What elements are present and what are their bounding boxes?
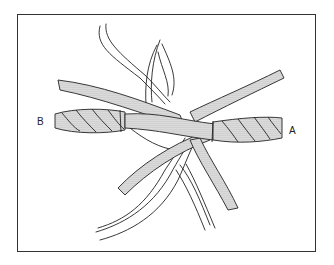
end-label-a: A [289,125,296,136]
end-label-b: B [37,116,44,127]
rope-splice-illustration [0,0,334,265]
